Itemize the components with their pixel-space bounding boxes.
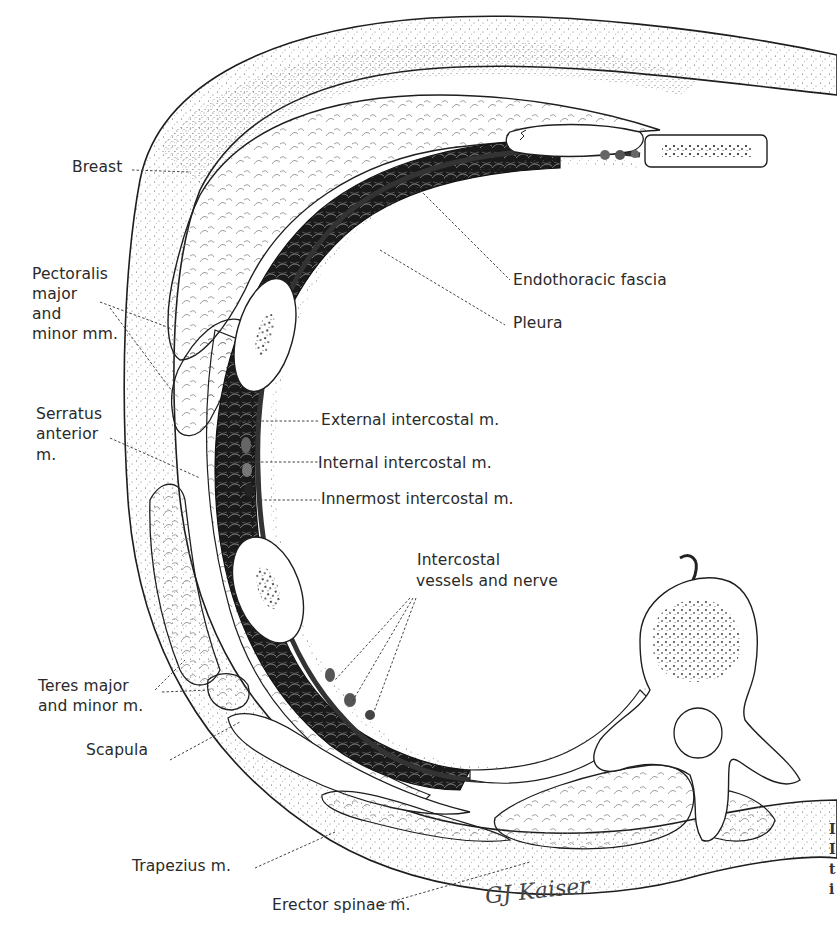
label-pectoralis-line1: Pectoralis bbox=[32, 265, 108, 284]
label-trapezius: Trapezius m. bbox=[132, 857, 231, 876]
label-scapula: Scapula bbox=[86, 741, 148, 760]
label-pleura: Pleura bbox=[513, 314, 562, 333]
sternum bbox=[645, 135, 767, 167]
label-teres-line1: Teres major bbox=[38, 677, 129, 696]
caption-frag-1: I bbox=[829, 820, 836, 839]
label-vessels-line2: vessels and nerve bbox=[416, 572, 558, 591]
caption-frag-4: i bbox=[829, 880, 834, 899]
label-breast: Breast bbox=[72, 158, 122, 177]
leader-pleura bbox=[380, 250, 505, 325]
caption-frag-2: I bbox=[829, 840, 836, 859]
label-pectoralis-line4: minor mm. bbox=[32, 325, 118, 344]
label-serratus-line1: Serratus bbox=[36, 405, 102, 424]
caption-frag-3: t bbox=[829, 860, 835, 879]
label-external-intercostal: External intercostal m. bbox=[321, 411, 499, 430]
label-serratus-line3: m. bbox=[36, 446, 56, 465]
label-vessels-line1: Intercostal bbox=[417, 551, 500, 570]
teres-major bbox=[150, 484, 220, 685]
label-erector-spinae: Erector spinae m. bbox=[272, 896, 410, 915]
leader-endothoracic bbox=[420, 190, 510, 280]
label-pectoralis-line3: and bbox=[32, 305, 61, 324]
label-teres-line2: and minor m. bbox=[38, 697, 143, 716]
label-pectoralis-line2: major bbox=[32, 285, 77, 304]
label-endothoracic-fascia: Endothoracic fascia bbox=[513, 271, 667, 290]
leader-trapezius bbox=[255, 832, 335, 868]
label-internal-intercostal: Internal intercostal m. bbox=[318, 454, 492, 473]
label-innermost-intercostal: Innermost intercostal m. bbox=[321, 490, 514, 509]
label-serratus-line2: anterior bbox=[36, 425, 98, 444]
